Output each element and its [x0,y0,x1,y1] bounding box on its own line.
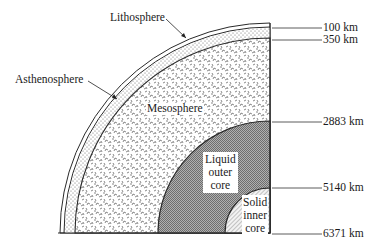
outer-core-label: Liquid outer core [203,152,238,193]
depth-100km: 100 km [323,22,358,34]
mesosphere-label: Mesosphere [146,103,204,115]
inner-core-label: Solid inner core [242,195,268,236]
lithosphere-label: Lithosphere [110,12,165,24]
depth-6371km: 6371 km [323,228,364,240]
asthenosphere-arrow [88,81,117,99]
depth-350km: 350 km [323,34,358,46]
depth-2883km: 2883 km [323,116,364,128]
asthenosphere-label: Asthenosphere [15,74,83,86]
depth-5140km: 5140 km [323,182,364,194]
